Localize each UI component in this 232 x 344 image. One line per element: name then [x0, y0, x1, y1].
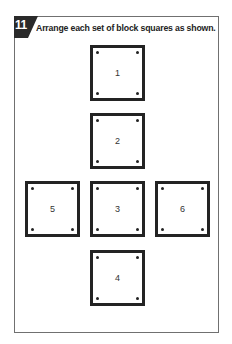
block-label: 4 — [93, 273, 142, 283]
block-square-4: 4 — [90, 250, 145, 306]
block-square-1: 1 — [90, 45, 145, 101]
corner-dot — [71, 187, 74, 190]
corner-dot — [161, 187, 164, 190]
corner-dot — [136, 256, 139, 259]
block-square-6: 6 — [155, 181, 210, 237]
corner-dot — [201, 187, 204, 190]
corner-dot — [136, 119, 139, 122]
corner-dot — [96, 92, 99, 95]
corner-dot — [136, 92, 139, 95]
instruction-text: Arrange each set of block squares as sho… — [36, 22, 216, 33]
corner-dot — [96, 51, 99, 54]
corner-dot — [31, 228, 34, 231]
block-label: 5 — [28, 204, 77, 214]
corner-dot — [136, 160, 139, 163]
block-label: 2 — [93, 136, 142, 146]
corner-dot — [136, 187, 139, 190]
corner-dot — [96, 256, 99, 259]
corner-dot — [161, 228, 164, 231]
corner-dot — [31, 187, 34, 190]
corner-dot — [96, 297, 99, 300]
corner-dot — [96, 119, 99, 122]
block-label: 3 — [93, 204, 142, 214]
block-square-2: 2 — [90, 113, 145, 169]
corner-dot — [201, 228, 204, 231]
corner-dot — [136, 297, 139, 300]
block-label: 6 — [158, 204, 207, 214]
block-square-3: 3 — [90, 181, 145, 237]
corner-dot — [96, 187, 99, 190]
corner-dot — [96, 228, 99, 231]
corner-dot — [96, 160, 99, 163]
block-square-5: 5 — [25, 181, 80, 237]
corner-dot — [71, 228, 74, 231]
corner-dot — [136, 228, 139, 231]
corner-dot — [136, 51, 139, 54]
block-label: 1 — [93, 68, 142, 78]
exercise-number: 11 — [15, 18, 27, 32]
